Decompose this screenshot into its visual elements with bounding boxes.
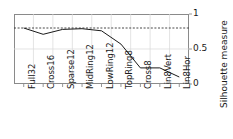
x-tick-label: Cross16 bbox=[47, 55, 56, 89]
y-axis-title: Silhouette measure bbox=[220, 20, 229, 108]
chart-container: 00.51 Full32Cross16Sparse12MidRing12LowR… bbox=[0, 0, 233, 139]
x-tick-label: Sparse12 bbox=[67, 49, 76, 89]
x-tick-label: Full32 bbox=[28, 64, 37, 89]
x-tick-label: Lin8Vert bbox=[164, 54, 173, 89]
y-tick-label: 0.5 bbox=[193, 44, 207, 53]
x-tick-label: TopRing8 bbox=[125, 50, 134, 89]
x-tick-label: Lin8Hor bbox=[183, 56, 192, 89]
y-tick-label: 1 bbox=[193, 9, 199, 18]
x-tick-label: MidRing12 bbox=[86, 44, 95, 89]
y-tick-label: 0 bbox=[193, 79, 199, 88]
x-tick-label: LowRing12 bbox=[106, 42, 115, 89]
x-tick-label: Cross8 bbox=[144, 60, 153, 89]
